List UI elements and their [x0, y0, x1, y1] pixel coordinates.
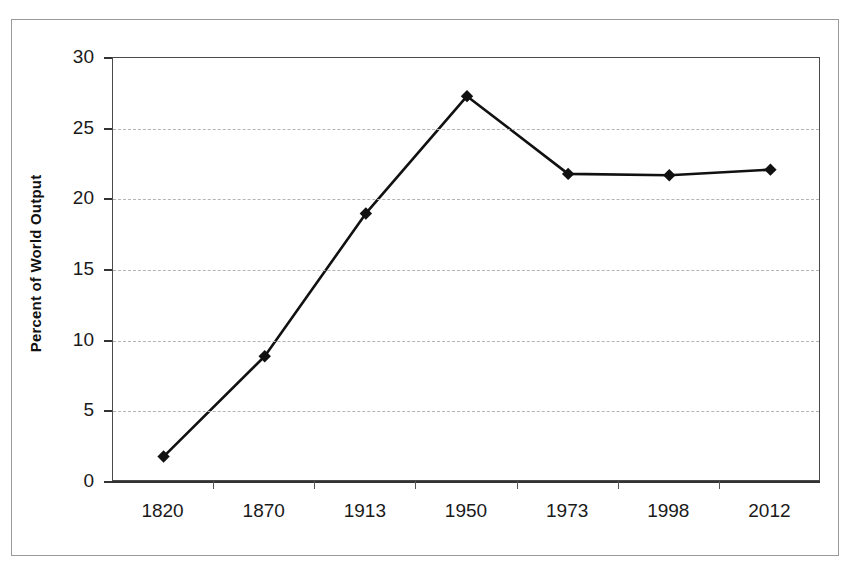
x-axis-tick-label: 1913 — [310, 501, 420, 520]
y-axis-tick — [104, 269, 112, 271]
y-axis-tick-label: 30 — [48, 47, 94, 66]
y-axis-tick — [104, 340, 112, 342]
x-axis-tick — [618, 481, 619, 489]
series-line — [164, 96, 771, 456]
y-axis-title: Percent of World Output — [27, 144, 44, 384]
y-axis-tick — [104, 128, 112, 130]
x-axis-tick-label: 1870 — [209, 501, 319, 520]
data-point-marker — [764, 163, 776, 175]
gridline — [113, 129, 819, 130]
x-axis-tick — [314, 481, 315, 489]
y-axis-tick — [104, 57, 112, 59]
y-axis-tick-label: 5 — [48, 400, 94, 419]
gridline — [113, 199, 819, 200]
y-axis-tick — [104, 198, 112, 200]
plot-area — [112, 57, 820, 481]
gridline — [113, 341, 819, 342]
x-axis-tick — [719, 481, 720, 489]
x-axis-tick-label: 1998 — [613, 501, 723, 520]
data-point-marker — [663, 169, 675, 181]
y-axis-tick-label: 0 — [48, 471, 94, 490]
x-axis-tick — [517, 481, 518, 489]
y-axis-tick — [104, 410, 112, 412]
x-axis-tick-label: 1973 — [512, 501, 622, 520]
gridline — [113, 270, 819, 271]
y-axis-tick-labels: 051015202530 — [48, 0, 94, 578]
y-axis-tick-label: 20 — [48, 188, 94, 207]
x-axis-tick-label: 2012 — [714, 501, 824, 520]
line-chart-figure: Percent of World Output 051015202530 182… — [0, 0, 859, 578]
y-axis-tick-label: 25 — [48, 118, 94, 137]
x-axis-tick — [415, 481, 416, 489]
x-axis-tick-label: 1820 — [108, 501, 218, 520]
x-axis-tick-label: 1950 — [411, 501, 521, 520]
gridline — [113, 411, 819, 412]
y-axis-tick-label: 10 — [48, 330, 94, 349]
x-axis-tick — [213, 481, 214, 489]
y-axis-tick-label: 15 — [48, 259, 94, 278]
y-axis-tick — [104, 481, 112, 483]
